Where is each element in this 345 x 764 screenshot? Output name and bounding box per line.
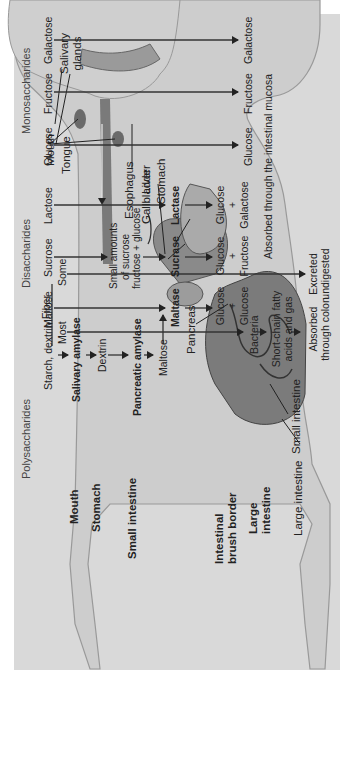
anatomy-mouth: Mouth [44, 134, 56, 166]
salivary-gland-shape [74, 109, 86, 129]
sucrose-note-line3: fructose + glucose [131, 225, 143, 289]
anatomy-stomach: Stomach [155, 159, 167, 204]
absorption-note: Absorbed through the intestinal mucosa [262, 74, 274, 259]
plus-sign: + [226, 228, 238, 284]
site-large-intestine: Large intestine [247, 487, 273, 534]
carbohydrate-digestion-diagram: Polysaccharides Disaccharides Monosaccha… [0, 0, 345, 764]
label-fructose: Fructose [42, 73, 54, 114]
salivary-line2: glands [71, 33, 84, 74]
excreted-line2: undigested [319, 244, 331, 304]
product-glucose: Glucose [214, 278, 226, 334]
site-mouth: Mouth [68, 490, 80, 524]
brush-border-line1: Intestinal [213, 492, 226, 564]
product-glucose: Glucose [214, 177, 226, 233]
label-starch-dextrin: Starch, dextrin [42, 322, 54, 390]
lactase-products: Glucose + Galactose [214, 177, 250, 233]
anatomy-tongue: Tongue [60, 136, 72, 174]
pancreatic-amylase: Pancreatic amylase [131, 319, 143, 416]
label-sucrose: Sucrose [42, 238, 54, 277]
label-maltose: Maltose [42, 291, 54, 328]
maltose-product: Maltose [157, 339, 169, 376]
sucrase-products: Glucose + Fructose [214, 228, 250, 284]
product-galactose-mono: Galactose [242, 17, 254, 64]
sucrose-note-line2: of sucrose [120, 225, 132, 289]
anatomy-esophagus: Esophagus [123, 161, 135, 219]
bacteria: Bacteria [248, 315, 260, 354]
product-glucose-mono: Glucose [242, 127, 254, 166]
anatomy-small-intestine: Small intestine [290, 379, 302, 454]
header-monosaccharides: Monosaccharides [20, 48, 32, 134]
anatomy-salivary-glands: Salivary glands [58, 33, 84, 74]
enzyme-lactase: Lactase [169, 186, 181, 225]
header-polysaccharides: Polysaccharides [20, 399, 32, 479]
plus-sign: + [226, 278, 238, 334]
product-galactose: Galactose [238, 177, 250, 233]
dextrin: Dextrin [96, 339, 108, 372]
header-disaccharides: Disaccharides [20, 219, 32, 288]
excreted-undigested: Excreted undigested [307, 244, 331, 304]
salivary-line1: Salivary [58, 33, 71, 74]
site-small-intestine: Small intestine [126, 478, 138, 559]
short-chain-fatty-acids: Short-chain fatty acids and gas [270, 289, 294, 369]
scfa-line2: acids and gas [282, 289, 294, 369]
anatomy-pancreas: Pancreas [185, 305, 197, 354]
salivary-amylase: Salivary amylase [70, 317, 82, 402]
maltase-products: Glucose + Glucose [214, 278, 250, 334]
anatomy-liver: Liver [140, 169, 152, 194]
scfa-line1: Short-chain fatty [270, 289, 282, 369]
excreted-line1: Excreted [307, 244, 319, 304]
plus-sign: + [226, 177, 238, 233]
product-fructose: Fructose [238, 228, 250, 284]
label-most: Most [56, 321, 68, 344]
sucrose-note: Small amounts of sucrose fructose + gluc… [108, 225, 143, 289]
label-some: Some [56, 259, 68, 286]
brush-border-line2: brush border [226, 492, 239, 564]
label-galactose: Galactose [42, 17, 54, 64]
site-stomach: Stomach [90, 483, 102, 532]
enzyme-maltase: Maltase [169, 288, 181, 327]
anatomy-large-intestine: Large intestine [292, 461, 304, 536]
product-glucose: Glucose [214, 228, 226, 284]
large-intestine-line2: intestine [260, 487, 273, 534]
enzyme-sucrase: Sucrase [169, 236, 181, 277]
product-fructose-mono: Fructose [242, 73, 254, 114]
label-lactose: Lactose [42, 187, 54, 224]
large-intestine-line1: Large [247, 487, 260, 534]
site-brush-border: Intestinal brush border [213, 492, 239, 564]
sucrose-note-line1: Small amounts [108, 225, 120, 289]
